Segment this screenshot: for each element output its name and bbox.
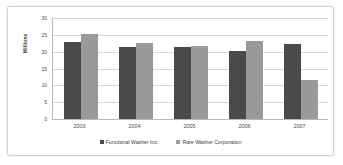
bar-2005-series-1[interactable] — [191, 46, 208, 119]
bar-group-2006 — [218, 18, 273, 119]
legend-label-0: Functional Washer Inc. — [106, 139, 159, 145]
bar-group-2005 — [163, 18, 218, 119]
x-axis-tick-2004: 2004 — [107, 123, 162, 133]
bar-group-2003 — [53, 18, 108, 119]
legend-swatch-icon-0 — [100, 140, 104, 144]
legend-swatch-icon-1 — [176, 140, 180, 144]
legend-item-1[interactable]: Rare Washer Corporation — [176, 139, 241, 145]
bar-2006-series-1[interactable] — [246, 41, 263, 119]
y-axis-tick-25: 25 — [41, 32, 47, 38]
x-axis-tick-2007: 2007 — [272, 123, 327, 133]
y-axis-tick-labels: 302520151050 — [30, 18, 49, 119]
x-axis-tick-2006: 2006 — [217, 123, 272, 133]
bar-2003-series-1[interactable] — [81, 34, 98, 120]
y-axis-tick-0: 0 — [44, 116, 47, 122]
y-axis-tick-20: 20 — [41, 49, 47, 55]
chart-frame: Millions 302520151050 200320042005200620… — [7, 6, 334, 156]
plot-area — [52, 18, 328, 120]
bar-2006-series-0[interactable] — [229, 51, 246, 119]
x-axis-tick-2005: 2005 — [162, 123, 217, 133]
x-axis-tick-2003: 2003 — [52, 123, 107, 133]
x-axis-tick-labels: 20032004200520062007 — [52, 123, 327, 133]
y-axis-tick-5: 5 — [44, 99, 47, 105]
y-axis-tick-10: 10 — [41, 82, 47, 88]
bar-group-2004 — [108, 18, 163, 119]
legend-item-0[interactable]: Functional Washer Inc. — [100, 139, 159, 145]
legend-label-1: Rare Washer Corporation — [182, 139, 241, 145]
bar-2007-series-0[interactable] — [284, 44, 301, 119]
bar-2004-series-1[interactable] — [136, 43, 153, 119]
bar-series-layer — [53, 18, 328, 119]
y-axis-tick-30: 30 — [41, 15, 47, 21]
chart-legend: Functional Washer Inc.Rare Washer Corpor… — [8, 139, 333, 145]
bar-2005-series-0[interactable] — [174, 47, 191, 119]
bar-2003-series-0[interactable] — [64, 42, 81, 119]
bar-2007-series-1[interactable] — [301, 80, 318, 119]
chart-plot-wrapper: Millions 302520151050 200320042005200620… — [8, 7, 333, 155]
bar-2004-series-0[interactable] — [119, 47, 136, 119]
bar-group-2007 — [273, 18, 328, 119]
y-axis-tick-15: 15 — [41, 66, 47, 72]
